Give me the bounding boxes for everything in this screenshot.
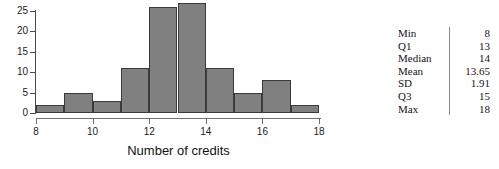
x-axis-tick xyxy=(319,119,320,124)
histogram-figure: 0510152025 81012141618 Number of credits… xyxy=(0,0,499,169)
y-axis-tick-label: 25 xyxy=(6,6,28,16)
x-axis-tick-label: 8 xyxy=(24,126,48,137)
stats-table-body: Min8Q113Median14Mean13.65SD1.91Q315Max18 xyxy=(398,27,490,115)
stats-row: Min8 xyxy=(398,27,490,40)
x-axis-tick xyxy=(149,119,150,124)
histogram-bar xyxy=(178,3,206,113)
stats-row: Mean13.65 xyxy=(398,65,490,78)
stats-row-value: 15 xyxy=(450,90,491,103)
x-axis-title: Number of credits xyxy=(36,143,321,158)
plot-area xyxy=(36,11,319,113)
y-axis-tick-label: 20 xyxy=(6,26,28,36)
y-axis-tick xyxy=(30,93,35,94)
histogram-bar xyxy=(291,105,319,113)
y-axis-tick xyxy=(30,113,35,114)
stats-row-label: Max xyxy=(398,103,450,116)
stats-row-label: SD xyxy=(398,77,450,90)
x-axis-tick-label: 16 xyxy=(250,126,274,137)
stats-row: Q315 xyxy=(398,90,490,103)
histogram-bar xyxy=(234,93,262,113)
x-axis-tick-label: 18 xyxy=(307,126,331,137)
y-axis-tick xyxy=(30,11,35,12)
stats-row-value: 18 xyxy=(450,103,491,116)
histogram-chart: 0510152025 81012141618 Number of credits xyxy=(0,0,340,169)
x-axis-tick xyxy=(36,119,37,124)
stats-row: Q113 xyxy=(398,40,490,53)
y-axis-tick-label: 15 xyxy=(6,47,28,57)
stats-row-label: Q3 xyxy=(398,90,450,103)
stats-row: Max18 xyxy=(398,103,490,116)
y-axis-tick-label: 10 xyxy=(6,67,28,77)
histogram-bar xyxy=(149,7,177,113)
histogram-bar xyxy=(64,93,92,113)
x-axis-tick-label: 12 xyxy=(137,126,161,137)
histogram-bar xyxy=(262,80,290,113)
stats-row-label: Min xyxy=(398,27,450,40)
x-axis-line xyxy=(36,118,321,119)
y-axis-tick xyxy=(30,72,35,73)
stats-row-label: Q1 xyxy=(398,40,450,53)
y-axis-tick-label: 5 xyxy=(6,88,28,98)
histogram-bar xyxy=(206,68,234,113)
stats-row: SD1.91 xyxy=(398,77,490,90)
y-axis-tick xyxy=(30,31,35,32)
stats-row-value: 13 xyxy=(450,40,491,53)
stats-row-label: Mean xyxy=(398,65,450,78)
stats-row-value: 13.65 xyxy=(450,65,491,78)
stats-row-value: 1.91 xyxy=(450,77,491,90)
x-axis-tick-label: 10 xyxy=(81,126,105,137)
x-axis-tick-label: 14 xyxy=(194,126,218,137)
summary-statistics-table: Min8Q113Median14Mean13.65SD1.91Q315Max18 xyxy=(398,27,490,115)
histogram-bar xyxy=(93,101,121,113)
stats-row-value: 8 xyxy=(450,27,491,40)
x-axis-tick xyxy=(93,119,94,124)
stats-table-element: Min8Q113Median14Mean13.65SD1.91Q315Max18 xyxy=(398,27,490,115)
stats-row-value: 14 xyxy=(450,52,491,65)
x-axis-tick xyxy=(262,119,263,124)
x-axis-tick xyxy=(206,119,207,124)
histogram-bar xyxy=(121,68,149,113)
stats-row: Median14 xyxy=(398,52,490,65)
histogram-bar xyxy=(36,105,64,113)
y-axis-tick-label: 0 xyxy=(6,108,28,118)
stats-row-label: Median xyxy=(398,52,450,65)
y-axis-tick xyxy=(30,52,35,53)
